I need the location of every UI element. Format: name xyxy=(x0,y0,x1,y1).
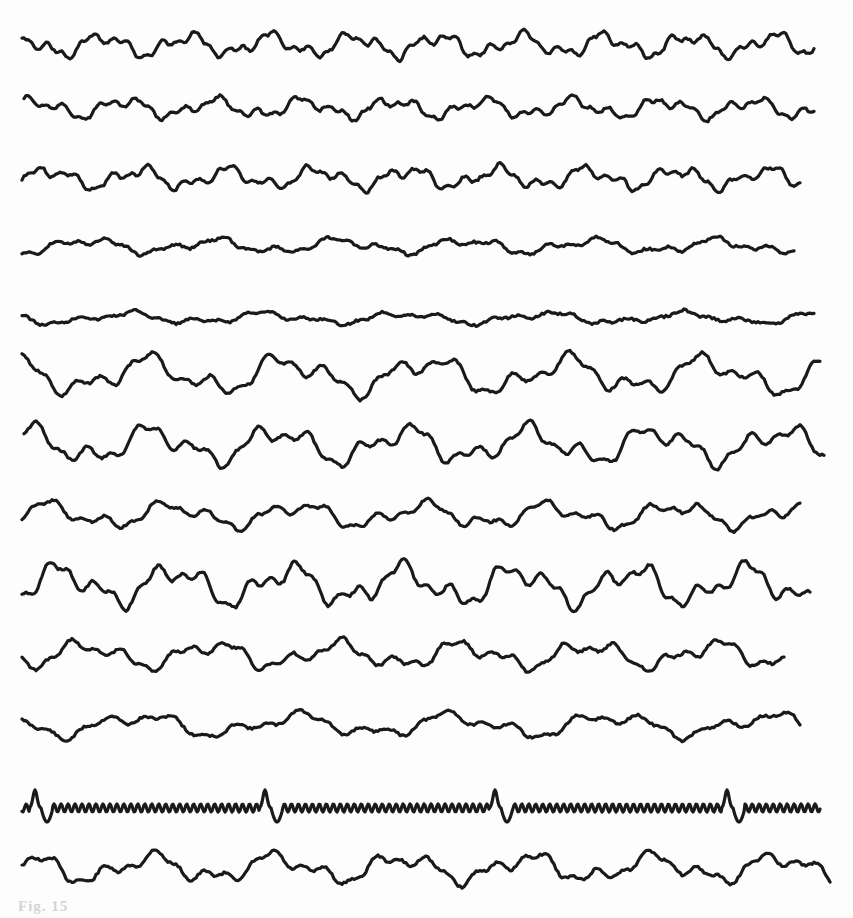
waveform-trace xyxy=(22,163,800,194)
waveform-trace xyxy=(22,637,784,672)
waveform-figure xyxy=(0,0,853,918)
waveform-trace xyxy=(22,350,820,400)
trace-group xyxy=(22,29,830,888)
timing-marker-trace xyxy=(22,790,820,822)
waveform-trace xyxy=(22,309,814,327)
waveform-trace xyxy=(22,29,814,61)
figure-caption: Fig. 15 xyxy=(18,898,68,915)
waveform-trace xyxy=(22,559,810,612)
waveform-trace xyxy=(22,710,800,742)
waveform-trace xyxy=(22,236,794,256)
waveform-trace xyxy=(22,850,830,888)
waveform-trace xyxy=(24,95,814,122)
waveform-trace xyxy=(22,498,800,532)
waveform-trace xyxy=(24,420,824,470)
